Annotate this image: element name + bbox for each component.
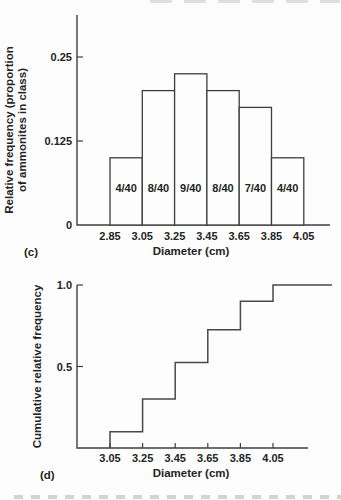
d-y-axis-title: Cumulative relative frequency	[31, 284, 43, 448]
histogram-bar-label: 8/40	[148, 182, 169, 194]
c-x-tick-label: 3.45	[196, 230, 217, 242]
c-x-tick-label: 3.65	[228, 230, 249, 242]
histogram-bar-label: 4/40	[115, 182, 136, 194]
histogram-bar	[239, 107, 271, 225]
panel-label-d: (d)	[40, 469, 55, 481]
c-y-tick-label: 0.25	[51, 51, 72, 63]
histogram-bar	[175, 74, 207, 225]
cumulative-frequency-step-chart: 0.51.03.053.253.453.653.854.05Diameter (…	[0, 270, 341, 500]
d-x-tick-label: 3.85	[230, 452, 251, 464]
d-x-axis-title: Diameter (cm)	[153, 467, 230, 479]
c-y-origin-label: 0	[66, 219, 72, 231]
histogram-bar-label: 4/40	[277, 182, 298, 194]
d-x-tick-label: 3.25	[132, 452, 153, 464]
c-y-axis-title: of ammonites in class)	[16, 68, 28, 192]
histogram-bar-label: 9/40	[180, 182, 201, 194]
c-x-axis-title: Diameter (cm)	[153, 245, 230, 257]
c-x-tick-label: 3.85	[261, 230, 282, 242]
d-x-tick-label: 3.45	[164, 452, 185, 464]
histogram-bar-label: 8/40	[212, 182, 233, 194]
c-y-axis-title: Relative frequency (proportion	[3, 46, 15, 213]
d-axes	[77, 285, 308, 448]
d-x-tick-label: 3.05	[99, 452, 120, 464]
panel-label-c: (c)	[24, 246, 38, 258]
c-x-tick-label: 3.05	[132, 230, 153, 242]
d-x-tick-label: 4.05	[262, 452, 283, 464]
d-y-tick-label: 1.0	[57, 279, 72, 291]
d-y-tick-label: 0.5	[57, 361, 72, 373]
c-x-tick-label: 4.05	[293, 230, 314, 242]
cumulative-step-line	[110, 285, 332, 448]
histogram-bar-label: 7/40	[245, 182, 266, 194]
c-x-tick-label: 3.25	[164, 230, 185, 242]
relative-frequency-histogram: 0.1250.2504/408/409/408/407/404/402.853.…	[0, 0, 341, 266]
c-y-tick-label: 0.125	[44, 135, 72, 147]
d-x-tick-label: 3.65	[197, 452, 218, 464]
c-x-tick-label: 2.85	[99, 230, 120, 242]
histogram-bar	[207, 91, 239, 225]
histogram-bar	[142, 91, 174, 225]
figure-page: 0.1250.2504/408/409/408/407/404/402.853.…	[0, 0, 341, 500]
